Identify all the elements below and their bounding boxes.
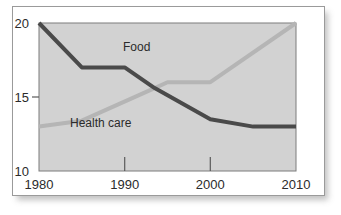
x-tick-label-1990: 1990 — [110, 177, 139, 192]
x-tick-label-2010: 2010 — [282, 177, 311, 192]
series-label-food: Food — [123, 40, 150, 54]
figure-root: 20 15 10 1980 1990 2000 2010 Food Health… — [0, 0, 341, 215]
chart-card: 20 15 10 1980 1990 2000 2010 Food Health… — [12, 6, 325, 196]
x-tick-label-1980: 1980 — [25, 177, 54, 192]
series-label-health-care: Health care — [70, 116, 132, 130]
line-chart: 20 15 10 1980 1990 2000 2010 Food Health… — [13, 7, 324, 195]
x-tick-label-2000: 2000 — [196, 177, 225, 192]
y-tick-label-15: 15 — [15, 90, 29, 105]
y-tick-label-20: 20 — [15, 16, 29, 31]
